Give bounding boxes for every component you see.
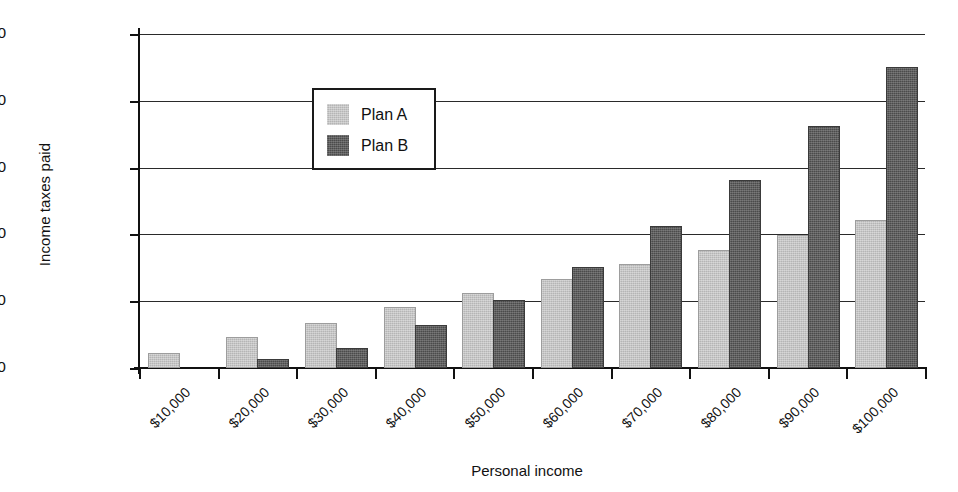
bar-plan-b-20000 <box>257 359 289 368</box>
x-axis-tick <box>846 369 848 379</box>
y-axis-tick-label: $0 <box>0 358 6 376</box>
y-axis-tick-label: $10,000 <box>0 224 6 242</box>
x-axis-tick-label: $40,000 <box>347 384 429 466</box>
x-axis-tick <box>925 369 927 379</box>
x-axis-tick <box>375 369 377 379</box>
x-axis-tick <box>532 369 534 379</box>
x-axis-tick <box>689 369 691 379</box>
bar-plan-a-60000 <box>541 279 573 368</box>
chart-canvas: Income taxes paid Personal income $0$5,0… <box>0 0 958 492</box>
bar-series-layer <box>139 34 925 368</box>
bar-plan-b-70000 <box>650 226 682 368</box>
bar-plan-a-20000 <box>226 337 258 368</box>
x-axis-tick-label: $10,000 <box>112 384 194 466</box>
bar-plan-b-30000 <box>336 348 368 368</box>
bar-plan-a-90000 <box>777 235 809 368</box>
y-axis-tick-label: $20,000 <box>0 91 6 109</box>
bar-plan-a-80000 <box>698 250 730 368</box>
x-axis-tick-label: $70,000 <box>583 384 665 466</box>
legend-label-plan-b: Plan B <box>361 137 408 155</box>
x-axis-tick <box>453 369 455 379</box>
bar-plan-a-100000 <box>855 220 887 368</box>
x-axis-tick-label: $60,000 <box>505 384 587 466</box>
x-axis-tick-label: $100,000 <box>819 384 901 466</box>
legend-entry-plan-a: Plan A <box>327 99 434 130</box>
legend-label-plan-a: Plan A <box>361 106 407 124</box>
bar-plan-b-50000 <box>493 300 525 368</box>
bar-plan-b-100000 <box>886 67 918 368</box>
x-axis-tick <box>139 369 141 379</box>
y-axis-tick-label: $15,000 <box>0 158 6 176</box>
y-axis-tick-label: $25,000 <box>0 24 6 42</box>
x-axis-tick-label: $90,000 <box>740 384 822 466</box>
x-axis-tick-label: $50,000 <box>426 384 508 466</box>
legend-swatch-plan-b-icon <box>327 135 349 156</box>
bar-plan-a-10000 <box>148 353 180 368</box>
legend-swatch-plan-a-icon <box>327 104 349 125</box>
chart-legend: Plan A Plan B <box>312 88 436 170</box>
bar-plan-a-40000 <box>384 307 416 368</box>
bar-plan-a-50000 <box>462 293 494 368</box>
x-axis-tick-label: $80,000 <box>662 384 744 466</box>
bar-plan-a-70000 <box>619 264 651 368</box>
legend-entry-plan-b: Plan B <box>327 130 434 161</box>
bar-plan-a-30000 <box>305 323 337 368</box>
x-axis-tick <box>296 369 298 379</box>
x-axis-tick <box>768 369 770 379</box>
bar-plan-b-60000 <box>572 267 604 368</box>
plot-area <box>139 34 925 368</box>
x-axis-tick-label: $20,000 <box>190 384 272 466</box>
y-axis-tick-label: $5,000 <box>0 291 6 309</box>
bar-plan-b-40000 <box>415 325 447 368</box>
x-axis-title: Personal income <box>129 462 925 479</box>
x-axis-tick <box>611 369 613 379</box>
x-axis-tick-label: $30,000 <box>269 384 351 466</box>
y-axis-title: Income taxes paid <box>36 85 53 325</box>
bar-plan-b-90000 <box>808 126 840 368</box>
bar-plan-b-80000 <box>729 180 761 368</box>
x-axis-tick <box>218 369 220 379</box>
